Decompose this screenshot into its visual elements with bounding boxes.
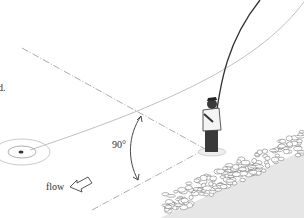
rock: [241, 160, 250, 165]
rock: [298, 133, 303, 136]
rock: [299, 131, 304, 134]
rock: [265, 156, 270, 160]
rock: [189, 195, 193, 199]
rock: [287, 142, 293, 147]
fishing-rod: [214, 0, 260, 132]
angle-arc: [130, 116, 141, 180]
rock: [209, 190, 216, 193]
rock: [252, 158, 257, 163]
rock: [186, 182, 192, 185]
rock: [198, 188, 202, 191]
rock: [261, 169, 266, 172]
rock: [278, 157, 284, 161]
reference-line-cast: [22, 48, 207, 150]
rock: [262, 149, 268, 153]
rock: [203, 186, 212, 190]
rock: [257, 150, 262, 155]
rock: [200, 175, 207, 180]
flow-arrow-icon: [70, 177, 92, 192]
rock: [240, 178, 246, 181]
rock: [271, 157, 278, 162]
rock: [294, 146, 302, 150]
rock: [232, 172, 240, 177]
rock: [240, 171, 248, 176]
fishing-diagram: d. 90° flow: [0, 0, 304, 218]
target-rings-icon: [0, 139, 50, 165]
rock: [297, 151, 304, 154]
rock: [167, 195, 176, 198]
rock: [280, 139, 286, 143]
rock: [213, 186, 218, 189]
rock: [209, 182, 213, 186]
rock: [181, 198, 188, 203]
angle-label: 90°: [112, 139, 126, 150]
rock: [204, 193, 209, 196]
rock: [185, 186, 192, 190]
rock: [283, 147, 288, 150]
rock: [255, 165, 263, 168]
rock: [237, 160, 241, 163]
rock: [269, 149, 276, 152]
rock: [275, 154, 279, 157]
rock: [217, 169, 225, 174]
rock: [286, 136, 292, 141]
rock: [165, 200, 173, 204]
rock: [239, 168, 247, 171]
rock: [210, 176, 217, 181]
rock: [265, 163, 270, 168]
fragment-text: d.: [0, 82, 6, 93]
rock: [178, 187, 186, 192]
rock: [226, 179, 234, 182]
rock: [297, 139, 303, 142]
rock: [232, 165, 239, 170]
flow-label: flow: [46, 181, 65, 192]
rock: [165, 205, 172, 208]
rock: [174, 190, 178, 193]
rock: [223, 167, 228, 170]
rock: [220, 184, 227, 188]
rock: [194, 179, 200, 183]
rock: [256, 171, 261, 175]
